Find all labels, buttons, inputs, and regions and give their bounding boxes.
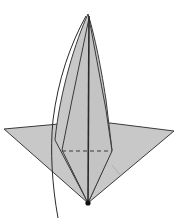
origami-diagram — [0, 0, 191, 218]
bottom-dot — [85, 200, 90, 205]
center-crease — [88, 16, 89, 203]
